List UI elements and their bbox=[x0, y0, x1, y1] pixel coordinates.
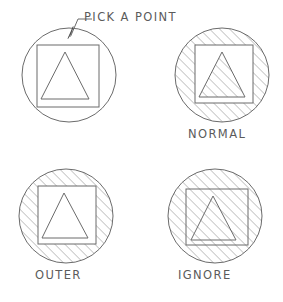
callout-label-pick-a-point: PICK A POINT bbox=[84, 12, 177, 24]
panel-outer bbox=[14, 164, 122, 272]
panel-label-normal: NORMAL bbox=[188, 129, 246, 141]
boundary-triangle bbox=[42, 193, 88, 238]
hatch-fill-ring bbox=[14, 164, 122, 272]
cad-drawing-canvas: PICK A POINT NORMAL OUTER IGNORE bbox=[0, 0, 283, 302]
hatch-fill-island-triangle bbox=[190, 45, 260, 109]
panel-pick-a-point bbox=[22, 28, 116, 122]
boundary-square bbox=[38, 186, 96, 244]
panel-label-ignore: IGNORE bbox=[178, 270, 232, 282]
panel-ignore bbox=[164, 164, 270, 270]
boundary-circle bbox=[22, 28, 116, 122]
boundary-square bbox=[37, 45, 99, 107]
hatch-fill-whole-circle bbox=[164, 164, 270, 270]
panel-normal bbox=[170, 22, 278, 132]
panel-label-outer: OUTER bbox=[35, 270, 82, 282]
hatch-style-illustration bbox=[0, 0, 283, 302]
boundary-triangle bbox=[41, 52, 89, 99]
